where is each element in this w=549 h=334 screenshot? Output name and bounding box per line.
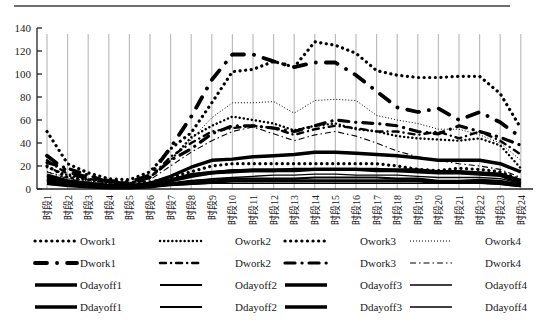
legend-item-odayoff3: Odayoff3 [285,279,402,291]
legend-item-odayoff4: Odayoff4 [410,279,527,291]
legend-label: Dwork2 [235,257,271,269]
x-axis-labels: 时段1时段2时段3时段4时段5时段6时段7时段8时段9时段10时段11时段12时… [41,195,527,225]
x-tick-label: 时段2 [62,195,74,220]
x-tick-label: 时段11 [247,195,259,225]
y-tick-label: 40 [20,137,32,149]
legend-label: Ddayoff1 [80,301,122,313]
series-dwork1 [47,55,521,183]
y-tick-label: 80 [20,91,32,103]
legend-label: Dwork4 [485,257,522,269]
legend-item-owork2: Owork2 [160,235,271,247]
legend-item-ddayoff2: Ddayoff2 [160,301,277,313]
legend-label: Ddayoff4 [485,301,527,313]
legend-item-odayoff2: Odayoff2 [160,279,277,291]
line-chart: 020406080100120140 时段1时段2时段3时段4时段5时段6时段7… [0,0,549,334]
y-tick-label: 100 [15,68,32,80]
y-tick-label: 120 [15,45,32,57]
y-tick-label: 20 [20,160,32,172]
legend-item-odayoff1: Odayoff1 [35,279,122,291]
legend-label: Ddayoff2 [235,301,277,313]
x-tick-label: 时段24 [515,195,527,225]
legend-label: Owork3 [360,235,397,247]
x-tick-label: 时段8 [185,195,197,220]
legend: Owork1Owork2Owork3Owork4Dwork1Dwork2Dwor… [35,235,527,313]
legend-item-ddayoff1: Ddayoff1 [35,301,122,313]
legend-label: Dwork1 [80,257,116,269]
x-tick-label: 时段14 [309,195,321,225]
y-axis-ticks: 020406080100120140 [15,22,43,195]
x-tick-label: 时段15 [329,195,341,225]
legend-label: Odayoff2 [235,279,277,291]
legend-label: Odayoff4 [485,279,527,291]
legend-label: Odayoff1 [80,279,122,291]
x-tick-label: 时段13 [288,195,300,225]
y-tick-label: 140 [15,22,32,34]
x-tick-label: 时段21 [453,195,465,225]
x-tick-label: 时段16 [350,195,362,225]
legend-item-owork3: Owork3 [285,235,397,247]
legend-label: Owork4 [485,235,522,247]
x-tick-label: 时段19 [412,195,424,225]
legend-label: Owork2 [235,235,271,247]
x-tick-label: 时段6 [144,195,156,220]
x-tick-label: 时段7 [165,195,177,220]
y-tick-label: 60 [20,114,32,126]
x-tick-label: 时段10 [226,195,238,225]
x-tick-label: 时段17 [371,195,383,225]
x-tick-label: 时段3 [82,195,94,220]
legend-label: Odayoff3 [360,279,402,291]
legend-item-ddayoff4: Ddayoff4 [410,301,527,313]
x-tick-label: 时段20 [432,195,444,225]
legend-item-dwork2: Dwork2 [160,257,271,269]
legend-item-owork4: Owork4 [410,235,522,247]
x-tick-label: 时段12 [268,195,280,225]
legend-item-dwork1: Dwork1 [35,257,116,269]
legend-item-ddayoff3: Ddayoff3 [285,301,402,313]
legend-label: Dwork3 [360,257,397,269]
legend-item-dwork3: Dwork3 [285,257,397,269]
x-tick-label: 时段5 [123,195,135,220]
legend-item-owork1: Owork1 [35,235,116,247]
legend-item-dwork4: Dwork4 [410,257,522,269]
x-tick-label: 时段9 [206,195,218,220]
legend-label: Ddayoff3 [360,301,402,313]
x-tick-label: 时段18 [391,195,403,225]
legend-label: Owork1 [80,235,116,247]
x-tick-label: 时段4 [103,195,115,220]
x-tick-label: 时段1 [41,195,53,220]
y-tick-label: 0 [26,183,32,195]
x-tick-label: 时段22 [474,195,486,225]
vertical-gridlines [47,34,521,189]
series-lines [47,42,521,188]
x-tick-label: 时段23 [494,195,506,225]
